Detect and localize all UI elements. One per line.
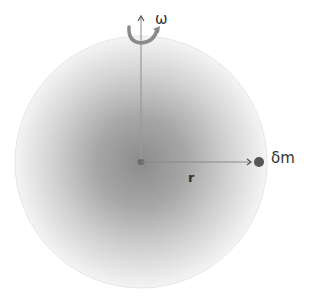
mass-element-dot [254,157,264,167]
radius-label: r [188,171,194,184]
sphere-diagram [0,0,310,302]
omega-label: ω [155,12,168,27]
mass-element-label: δm [271,151,295,166]
